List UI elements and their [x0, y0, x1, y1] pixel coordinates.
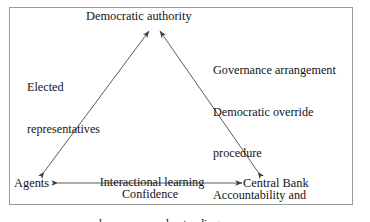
edge-label-line: Democratic override [213, 106, 336, 120]
edge-label-governance-block: Governance arrangement Democratic overri… [213, 36, 336, 222]
diagram-canvas: Democratic authority Agents Central Bank… [0, 0, 370, 222]
edge-label-interactional-learning: Interactional learning and common unders… [78, 148, 226, 222]
node-agents: Agents [14, 176, 49, 190]
edge-label-confidence: Confidence [110, 188, 190, 202]
edge-label-line: Accountability and [213, 189, 336, 203]
edge-label-line: procedure [213, 147, 336, 161]
edge-label-line: and common understanding [78, 218, 226, 222]
edge-label-line: representatives [27, 123, 100, 137]
edge-label-line: Elected [27, 81, 100, 95]
edge-label-line: Governance arrangement [213, 64, 336, 78]
node-democratic-authority: Democratic authority [86, 9, 192, 23]
